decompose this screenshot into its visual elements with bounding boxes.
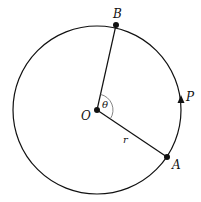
point-a bbox=[164, 154, 170, 160]
circle-diagram: B O θ P A r bbox=[0, 0, 201, 202]
point-o bbox=[94, 107, 100, 113]
label-a: A bbox=[171, 158, 181, 172]
label-p: P bbox=[185, 90, 195, 104]
label-o: O bbox=[81, 109, 91, 123]
radius-oa bbox=[97, 110, 167, 157]
label-r: r bbox=[123, 134, 129, 145]
point-b bbox=[113, 22, 119, 28]
arrow-p-icon bbox=[178, 95, 185, 103]
label-b: B bbox=[112, 7, 122, 21]
label-theta: θ bbox=[102, 99, 108, 110]
